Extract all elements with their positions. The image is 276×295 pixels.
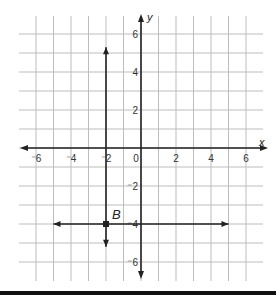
arrowhead-icon	[222, 221, 229, 227]
axes	[20, 14, 268, 279]
x-axis-left-arrow-icon	[20, 145, 28, 151]
x-axis-label: x	[258, 136, 265, 148]
y-axis-label: y	[146, 11, 154, 23]
arrowhead-icon	[103, 47, 109, 54]
coordinate-plane: ⁻6⁻4⁻20246642⁻2⁻4⁻6 y x B	[0, 0, 276, 295]
y-axis-down-arrow-icon	[138, 271, 144, 279]
y-tick-label: ⁻2	[127, 181, 138, 192]
x-tick-label: ⁻6	[31, 153, 42, 164]
y-tick-label: 2	[132, 105, 138, 116]
y-tick-label: 4	[132, 67, 138, 78]
x-tick-label: 2	[173, 153, 179, 164]
y-axis-up-arrow-icon	[138, 14, 144, 22]
y-tick-label: ⁻6	[127, 257, 138, 268]
y-tick-label: 6	[132, 29, 138, 40]
plotted-points	[103, 221, 109, 227]
x-tick-label: 4	[208, 153, 214, 164]
point-b	[103, 221, 109, 227]
x-tick-label: ⁻4	[66, 153, 77, 164]
x-tick-label: 0	[133, 153, 139, 164]
x-tick-label: 6	[243, 153, 249, 164]
bottom-border	[0, 291, 276, 295]
point-b-label: B	[112, 207, 121, 222]
arrowhead-icon	[54, 221, 61, 227]
